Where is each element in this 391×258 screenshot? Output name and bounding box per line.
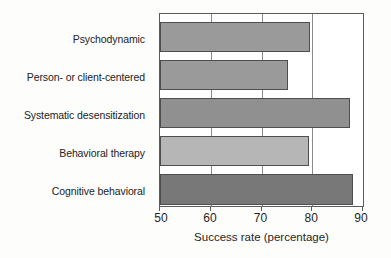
category-label-cognitive-behavioral: Cognitive behavioral [52, 186, 145, 197]
x-axis-tick-labels: 50 60 70 80 90 [159, 211, 364, 229]
x-tick-label-80: 80 [305, 211, 318, 225]
x-axis-title: Success rate (percentage) [159, 231, 364, 243]
bar-chart: Psychodynamic Person- or client-centered… [0, 0, 391, 258]
bar-psychodynamic [160, 22, 310, 52]
x-tick-label-60: 60 [203, 211, 216, 225]
bar-person-centered [160, 60, 288, 90]
bars-layer [160, 14, 363, 206]
bar-cognitive-behavioral [160, 174, 353, 205]
plot-area [159, 13, 364, 207]
category-label-person-centered: Person- or client-centered [27, 72, 145, 83]
bar-behavioral-therapy [160, 136, 309, 166]
category-label-systematic-desensitization: Systematic desensitization [24, 110, 145, 121]
category-label-behavioral-therapy: Behavioral therapy [59, 148, 145, 159]
category-axis-labels: Psychodynamic Person- or client-centered… [0, 13, 152, 207]
x-tick-label-70: 70 [254, 211, 267, 225]
x-tick-label-90: 90 [354, 211, 367, 225]
category-label-psychodynamic: Psychodynamic [73, 34, 145, 45]
bar-systematic-desensitization [160, 98, 350, 128]
x-tick-label-50: 50 [154, 211, 167, 225]
